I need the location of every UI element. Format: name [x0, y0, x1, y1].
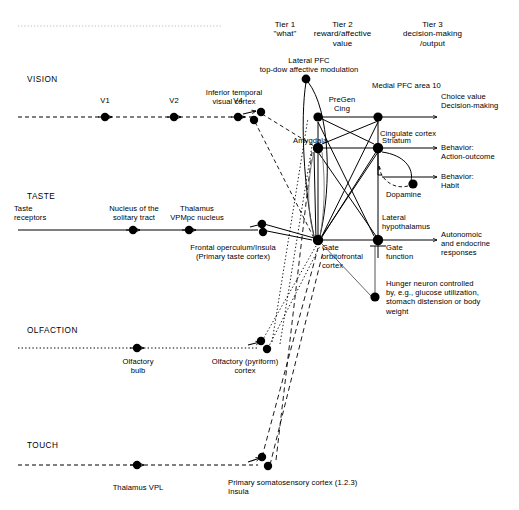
node-label-v2: V2 [159, 96, 189, 105]
node-label-lateral-pfc: Lateral PFCtop-dow affective modulation [244, 56, 374, 74]
tier-3-line1: Tier 3 [422, 20, 443, 29]
tier-2-line3: value [333, 39, 353, 48]
node-label-pyriform-cortex: Olfactory (pyriform)cortex [196, 357, 294, 375]
output-label-habit: Behavior:Habit [441, 172, 474, 190]
modality-label-taste: TASTE [27, 192, 55, 201]
output-label-autonomic: Autonomoicand endocrineresponses [441, 230, 490, 258]
node-label-hunger-neuron: Hunger neuron controlledby, e.g., glucos… [386, 279, 480, 316]
node-label-gate-function: Gatefunction [386, 243, 413, 261]
node-label-thalamus-vpmpc: ThalamusVPMpc nucleus [152, 204, 242, 222]
modality-label-olfaction: OLFACTION [27, 326, 78, 335]
output-label-choice-value: Choice valueDecision-making [441, 92, 498, 110]
node-label-taste-receptors: Tastereceptors [14, 204, 46, 222]
node-label-medial-pfc: Medial PFC area 10 [372, 81, 441, 90]
node-label-amygdala: Amygdala [293, 136, 327, 145]
node-label-somatosensory-cortex: Primary somatosensory cortex (1.2.3)Insu… [228, 478, 357, 496]
node-label-striatum: Striatum [382, 136, 411, 145]
node-label-thalamus-vpl: Thalamus VPL [96, 483, 180, 492]
figure-canvas: Tier 1"what" Tier 2reward/affectivevalue… [0, 0, 519, 510]
tier-2-line2: reward/affective [314, 29, 372, 38]
modality-label-vision: VISION [27, 75, 58, 84]
node-label-pregen-cing: PreGenCing [322, 95, 362, 113]
tier-3-line3: /output [420, 39, 445, 48]
tier-2-line1: Tier 2 [332, 20, 353, 29]
node-label-lateral-hypothalamus: Lateralhypothalamus [382, 213, 430, 231]
tier-3-header: Tier 3decision-making/output [385, 20, 480, 48]
node-label-orbitofrontal-cortex: Gateorbitofrontalcortex [322, 243, 363, 271]
output-label-action-outcome: Behavior:Action-outcome [441, 143, 495, 161]
node-label-olfactory-bulb: Olfactorybulb [104, 357, 172, 375]
node-label-inferior-temporal-visual-cortex: Inferior temporalvisual cortex [188, 88, 280, 106]
tier-3-line2: decision-making [403, 29, 462, 38]
node-label-frontal-operculum: Frontal operculum/Insula(Primary taste c… [168, 243, 298, 261]
tier-2-header: Tier 2reward/affectivevalue [290, 20, 395, 48]
node-label-v1: V1 [90, 96, 120, 105]
node-label-dopamine: Dopamine [386, 190, 421, 199]
modality-label-touch: TOUCH [27, 441, 58, 450]
